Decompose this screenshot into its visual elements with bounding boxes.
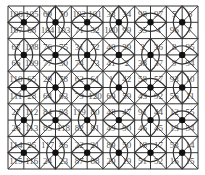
center-dot [52,52,58,58]
center-dot [52,84,58,90]
center-dot [21,117,27,123]
center-dot [52,19,58,25]
center-dot [84,19,90,25]
center-dot [21,19,27,25]
center-dot [21,150,27,156]
center-dot [179,84,185,90]
center-dot [147,84,153,90]
center-dot [21,52,27,58]
center-dot [116,117,122,123]
center-dot [116,150,122,156]
center-dot [84,84,90,90]
center-dot [147,117,153,123]
center-dot [84,117,90,123]
center-dot [147,52,153,58]
center-dot [84,52,90,58]
center-dot [116,52,122,58]
center-dot [179,117,185,123]
center-dot [179,150,185,156]
center-dot [84,150,90,156]
center-dot [179,52,185,58]
center-dot [21,84,27,90]
number-loop-puzzle: 1061056970102101333498975610768104103713… [0,0,205,175]
center-dot [147,150,153,156]
center-dot [116,19,122,25]
center-dot [52,150,58,156]
center-dot [147,19,153,25]
center-dot [116,84,122,90]
center-dot [179,19,185,25]
center-dot [52,117,58,123]
